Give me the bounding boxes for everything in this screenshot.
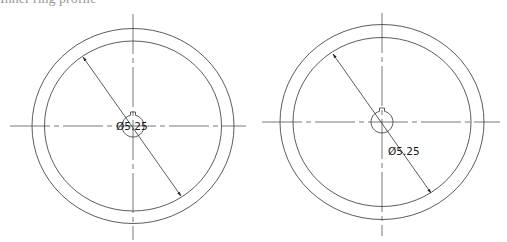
right-diameter-label: Ø5.25 (388, 146, 420, 157)
left-diameter-label: Ø5.25 (116, 121, 148, 132)
technical-drawing-canvas (0, 0, 507, 242)
right-view-drawing (262, 13, 500, 236)
